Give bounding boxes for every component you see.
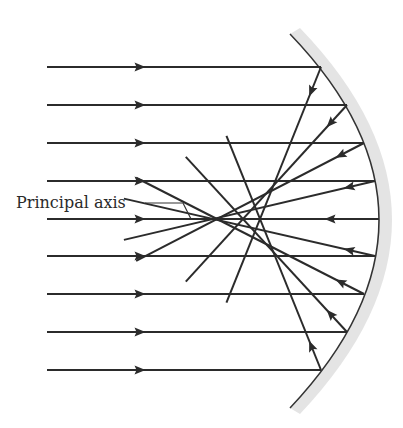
concave-mirror [290, 34, 379, 408]
principal-axis-label: Principal axis [16, 193, 126, 212]
concave-mirror-diagram: Principal axis [0, 0, 403, 428]
reflected-ray [226, 136, 321, 370]
mirror-shadow [290, 28, 392, 414]
